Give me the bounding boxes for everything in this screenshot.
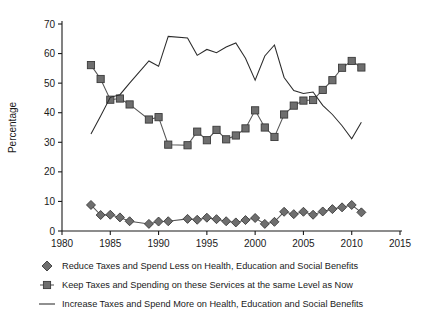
y-axis-tick-label: 40 — [44, 107, 56, 118]
legend-item-2[interactable]: Keep Taxes and Spending on these Service… — [40, 280, 353, 290]
y-axis-tick-label: 30 — [44, 137, 56, 148]
chart-container: 0102030405060701980198519901995200020052… — [0, 0, 434, 321]
legend-item-label: Keep Taxes and Spending on these Service… — [62, 280, 353, 290]
data-point-marker — [87, 62, 94, 69]
chart-legend: Reduce Taxes and Spend Less on Health, E… — [39, 261, 364, 309]
data-point-marker — [358, 64, 365, 71]
x-axis-tick-label: 1985 — [99, 238, 122, 249]
y-axis-tick-label: 20 — [44, 166, 56, 177]
data-point-marker — [126, 101, 133, 108]
y-axis-tick-label: 10 — [44, 196, 56, 207]
data-point-marker — [165, 141, 172, 148]
data-point-marker — [203, 137, 210, 144]
y-axis-tick-label: 0 — [49, 226, 55, 237]
data-point-marker — [290, 102, 297, 109]
legend-item-label: Reduce Taxes and Spend Less on Health, E… — [62, 261, 358, 271]
x-axis-tick-label: 1990 — [147, 238, 170, 249]
legend-item-3[interactable]: Increase Taxes and Spend More on Health,… — [39, 299, 364, 309]
data-point-marker — [232, 132, 239, 139]
data-point-marker — [213, 126, 220, 133]
data-point-marker — [194, 128, 201, 135]
data-point-marker — [116, 95, 123, 102]
data-point-marker — [155, 114, 162, 121]
data-point-marker — [348, 57, 355, 64]
data-point-marker — [300, 97, 307, 104]
x-axis-tick-label: 2015 — [389, 238, 412, 249]
data-point-marker — [271, 133, 278, 140]
y-axis-tick-label: 60 — [44, 48, 56, 59]
y-axis-title: Percentage — [7, 101, 18, 153]
y-axis-tick-label: 50 — [44, 78, 56, 89]
percentage-line-chart: 0102030405060701980198519901995200020052… — [0, 0, 434, 321]
data-point-marker — [145, 116, 152, 123]
data-point-marker — [329, 77, 336, 84]
data-point-marker — [223, 136, 230, 143]
data-point-marker — [184, 142, 191, 149]
x-axis-tick-label: 2005 — [292, 238, 315, 249]
plot-background — [0, 0, 434, 321]
data-point-marker — [319, 86, 326, 93]
data-point-marker — [281, 111, 288, 118]
legend-item-label: Increase Taxes and Spend More on Health,… — [62, 299, 364, 309]
x-axis-tick-label: 1995 — [196, 238, 219, 249]
data-point-marker — [309, 96, 316, 103]
legend-item-1[interactable]: Reduce Taxes and Spend Less on Health, E… — [42, 261, 358, 271]
data-point-marker — [338, 64, 345, 71]
legend-square-icon — [43, 281, 50, 288]
data-point-marker — [261, 124, 268, 131]
y-axis-tick-label: 70 — [44, 19, 56, 30]
x-axis-tick-label: 2010 — [341, 238, 364, 249]
data-point-marker — [97, 75, 104, 82]
x-axis-tick-label: 2000 — [244, 238, 267, 249]
data-point-marker — [252, 107, 259, 114]
x-axis-tick-label: 1980 — [51, 238, 74, 249]
data-point-marker — [242, 125, 249, 132]
